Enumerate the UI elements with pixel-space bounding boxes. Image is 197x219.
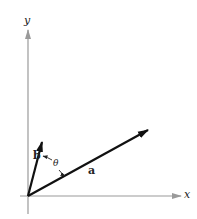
vector-a [28,130,148,196]
vector-diagram: y x a b θ [0,0,197,219]
angle-arc-to-a [59,170,65,176]
vector-b-label: b [33,150,41,161]
x-axis-label: x [184,189,190,200]
y-axis-label: y [24,15,30,26]
vector-a-label: a [88,165,95,176]
angle-theta-label: θ [53,159,58,168]
diagram-canvas [0,0,197,219]
angle-arc-to-b [43,156,52,160]
